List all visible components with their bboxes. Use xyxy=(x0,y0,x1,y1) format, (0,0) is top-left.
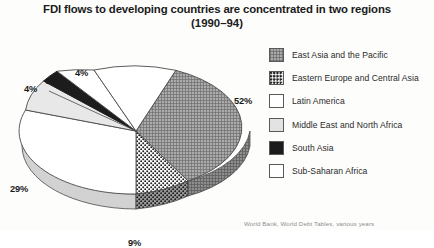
legend-swatch-latin-america xyxy=(269,94,284,108)
legend-swatch-south-asia xyxy=(269,141,284,155)
legend-swatch-eastern-europe-and-central-asia xyxy=(269,71,284,85)
legend-item-south-asia: South Asia xyxy=(269,137,434,158)
source-note: World Bank, World Debt Tables, various y… xyxy=(244,220,434,227)
legend-label-sub-saharan-africa: Sub-Saharan Africa xyxy=(292,166,367,176)
pie-value-label-eastern-europe-and-central-asia: 9% xyxy=(128,238,141,248)
chart-title-block: FDI flows to developing countries are co… xyxy=(0,3,434,30)
pie-value-label-south-asia: 2% xyxy=(46,76,59,86)
pie-chart: 52% 9% 29% 4% 2% 4% xyxy=(2,34,270,226)
legend-swatch-middle-east-and-north-africa xyxy=(269,118,284,132)
legend-label-middle-east-and-north-africa: Middle East and North Africa xyxy=(292,120,402,130)
legend-item-eastern-europe-and-central-asia: Eastern Europe and Central Asia xyxy=(269,68,434,89)
legend-swatch-sub-saharan-africa xyxy=(269,164,284,178)
legend-item-latin-america: Latin America xyxy=(269,91,434,112)
legend-item-middle-east-and-north-africa: Middle East and North Africa xyxy=(269,114,434,135)
legend-label-latin-america: Latin America xyxy=(292,96,345,106)
legend-item-east-asia-and-the-pacific: East Asia and the Pacific xyxy=(269,45,434,66)
legend-label-south-asia: South Asia xyxy=(292,143,334,153)
chart-subtitle: (1990–94) xyxy=(0,17,434,31)
pie-value-label-east-asia-and-the-pacific: 52% xyxy=(234,96,252,106)
legend-label-east-asia-and-the-pacific: East Asia and the Pacific xyxy=(292,50,388,60)
pie-value-label-latin-america: 29% xyxy=(10,184,28,194)
legend-label-eastern-europe-and-central-asia: Eastern Europe and Central Asia xyxy=(292,73,419,83)
legend-swatch-east-asia-and-the-pacific xyxy=(269,48,284,62)
pie-value-label-middle-east-and-north-africa: 4% xyxy=(24,84,37,94)
pie-value-label-sub-saharan-africa: 4% xyxy=(75,68,88,78)
chart-legend: East Asia and the Pacific Eastern Europe… xyxy=(269,45,434,184)
legend-item-sub-saharan-africa: Sub-Saharan Africa xyxy=(269,160,434,181)
chart-title: FDI flows to developing countries are co… xyxy=(0,3,434,17)
pie-chart-svg xyxy=(2,34,270,226)
